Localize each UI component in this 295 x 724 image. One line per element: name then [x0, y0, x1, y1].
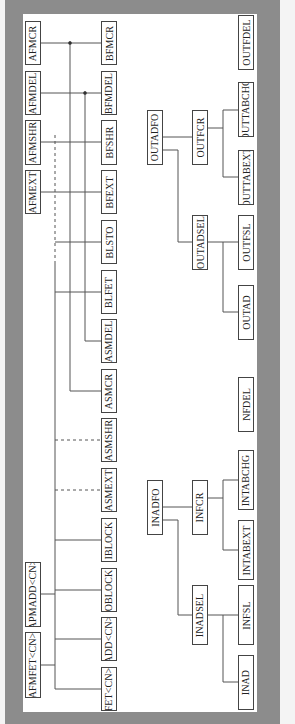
node-intabchg: INTABCHG	[238, 450, 254, 510]
node-asmdel: ASMDEL	[101, 319, 117, 363]
node-outadfo: OUTADFO	[147, 110, 163, 165]
node-inad: INAD	[238, 655, 254, 710]
node-inadfo: INADFO	[147, 480, 163, 535]
node-outfsl: OUTFSL	[238, 215, 254, 270]
node-oblock: OBLOCK	[101, 568, 117, 612]
node-outadsel: OUTADSEL	[192, 215, 208, 270]
node-outfdel: OUTFDEL	[238, 15, 254, 70]
node-outtabext: OUTTABEXT	[238, 150, 254, 205]
node-bfmdel: BFMDEL	[101, 71, 117, 115]
node-nfdel: NFDEL	[238, 377, 254, 432]
node-outtabchg: OUTTABCHG	[238, 82, 254, 137]
node-infcr: INFCR	[192, 480, 208, 535]
node-afmdel: AFMDEL	[25, 71, 41, 115]
node-apmadd: APMADD<CN>	[25, 562, 41, 627]
node-bfmcr: BFMCR	[101, 21, 117, 65]
node-inadsel: INADSEL	[192, 585, 208, 645]
node-fet: FET<CN>	[101, 667, 117, 711]
node-infsl: INFSL	[238, 585, 254, 645]
node-outad: OUTAD	[238, 285, 254, 340]
node-afmcr: AFMCR	[25, 21, 41, 65]
node-asmcr: ASMCR	[101, 369, 117, 413]
node-add: ADD<CN>	[101, 617, 117, 661]
node-afmext: AFMEXT	[25, 170, 41, 214]
node-bfshr: BFSHR	[101, 120, 117, 165]
node-blsto: BLSTO	[101, 220, 117, 264]
node-blfet: BLFET	[101, 270, 117, 314]
node-bfext: BFEXT	[101, 170, 117, 214]
node-afmshr: AFMSHR	[25, 120, 41, 165]
node-outfcr: OUTFCR	[192, 110, 208, 165]
node-asmext: ASMEXT	[101, 468, 117, 512]
node-intabext: INTABEXT	[238, 520, 254, 580]
node-iblock: IBLOCK	[101, 518, 117, 562]
node-asmshr: ASMSHR	[101, 418, 117, 462]
node-afmfet: AFMFET<CN>	[25, 632, 41, 698]
